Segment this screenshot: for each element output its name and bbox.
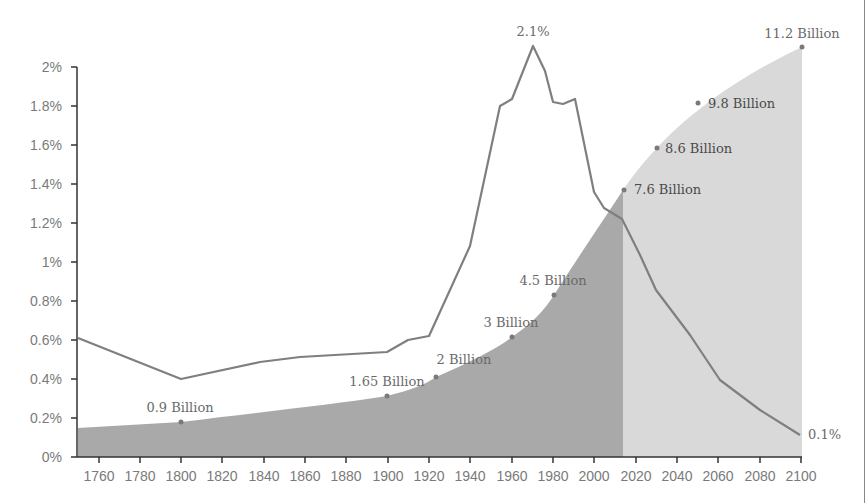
pop-label-1900: 1.65 Billion [349, 374, 425, 389]
x-axis-ticks [99, 457, 801, 463]
pop-label-1960: 3 Billion [484, 315, 539, 330]
pop-label-1927: 2 Billion [437, 352, 492, 367]
y-axis-ticks [71, 67, 77, 457]
svg-text:2020: 2020 [620, 468, 651, 484]
svg-text:0.8%: 0.8% [30, 293, 62, 309]
pop-label-1974: 4.5 Billion [519, 273, 587, 288]
svg-text:2%: 2% [42, 59, 62, 75]
svg-text:1940: 1940 [454, 468, 485, 484]
pop-label-1800: 0.9 Billion [146, 400, 214, 415]
svg-text:1860: 1860 [289, 468, 320, 484]
svg-text:2060: 2060 [702, 468, 733, 484]
svg-text:1920: 1920 [413, 468, 444, 484]
svg-text:1980: 1980 [537, 468, 568, 484]
svg-text:1.8%: 1.8% [30, 98, 62, 114]
svg-text:1.4%: 1.4% [30, 176, 62, 192]
pop-label-2014: 7.6 Billion [634, 182, 702, 197]
svg-text:1900: 1900 [372, 468, 403, 484]
x-axis-labels: 1760 1780 1800 1820 1840 1860 1880 1900 … [83, 468, 816, 484]
population-growth-chart: 0% 0.2% 0.4% 0.6% 0.8% 1% 1.2% 1.4% 1.6%… [0, 0, 867, 503]
svg-text:0%: 0% [42, 449, 62, 465]
svg-text:1820: 1820 [206, 468, 237, 484]
svg-text:1840: 1840 [248, 468, 279, 484]
svg-text:1800: 1800 [165, 468, 196, 484]
svg-text:1760: 1760 [83, 468, 114, 484]
svg-text:1.2%: 1.2% [30, 215, 62, 231]
pop-label-2030: 8.6 Billion [665, 141, 733, 156]
svg-text:2100: 2100 [785, 468, 816, 484]
svg-text:2040: 2040 [661, 468, 692, 484]
historical-population-area [78, 190, 623, 457]
svg-text:0.6%: 0.6% [30, 332, 62, 348]
peak-rate-label: 2.1% [516, 24, 549, 39]
pop-label-2100: 11.2 Billion [764, 26, 840, 41]
svg-text:0.4%: 0.4% [30, 371, 62, 387]
svg-text:1780: 1780 [124, 468, 155, 484]
frame-border [864, 0, 865, 503]
svg-text:2000: 2000 [578, 468, 609, 484]
svg-text:1.6%: 1.6% [30, 137, 62, 153]
svg-text:0.2%: 0.2% [30, 410, 62, 426]
svg-text:1880: 1880 [330, 468, 361, 484]
svg-text:2080: 2080 [744, 468, 775, 484]
end-rate-label: 0.1% [808, 427, 841, 442]
y-axis-labels: 0% 0.2% 0.4% 0.6% 0.8% 1% 1.2% 1.4% 1.6%… [30, 59, 62, 465]
svg-text:1%: 1% [42, 254, 62, 270]
svg-text:1960: 1960 [496, 468, 527, 484]
pop-label-2050: 9.8 Billion [708, 96, 776, 111]
